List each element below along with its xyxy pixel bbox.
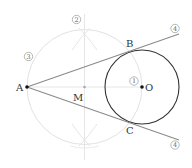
- step-marker-2: 2: [72, 15, 80, 23]
- tangent-construction-diagram: A M O B C 1 2 3 4 4: [0, 0, 192, 168]
- step-marker-1: 1: [130, 77, 138, 86]
- point-m: [83, 86, 86, 89]
- tangent-line-ab: [27, 34, 179, 87]
- step-marker-3: 3: [24, 52, 32, 61]
- svg-text:4: 4: [173, 141, 177, 149]
- point-a: [25, 85, 29, 89]
- label-o: O: [145, 82, 153, 93]
- step-marker-4-bottom: 4: [171, 141, 179, 150]
- construction-arc-top-left: [72, 28, 90, 50]
- construction-arc-bottom-left: [72, 124, 90, 146]
- point-o: [140, 85, 144, 89]
- svg-text:1: 1: [132, 77, 136, 85]
- label-c: C: [126, 125, 134, 136]
- svg-text:3: 3: [26, 53, 30, 61]
- step-marker-4-top: 4: [171, 24, 179, 33]
- construction-arc-top-right: [79, 28, 97, 50]
- svg-text:2: 2: [74, 16, 78, 24]
- label-b: B: [126, 38, 133, 49]
- label-a: A: [15, 82, 24, 93]
- label-m: M: [73, 92, 83, 103]
- tangent-line-ac: [27, 87, 179, 140]
- construction-arc-bottom-right: [79, 124, 97, 146]
- svg-text:4: 4: [173, 25, 177, 33]
